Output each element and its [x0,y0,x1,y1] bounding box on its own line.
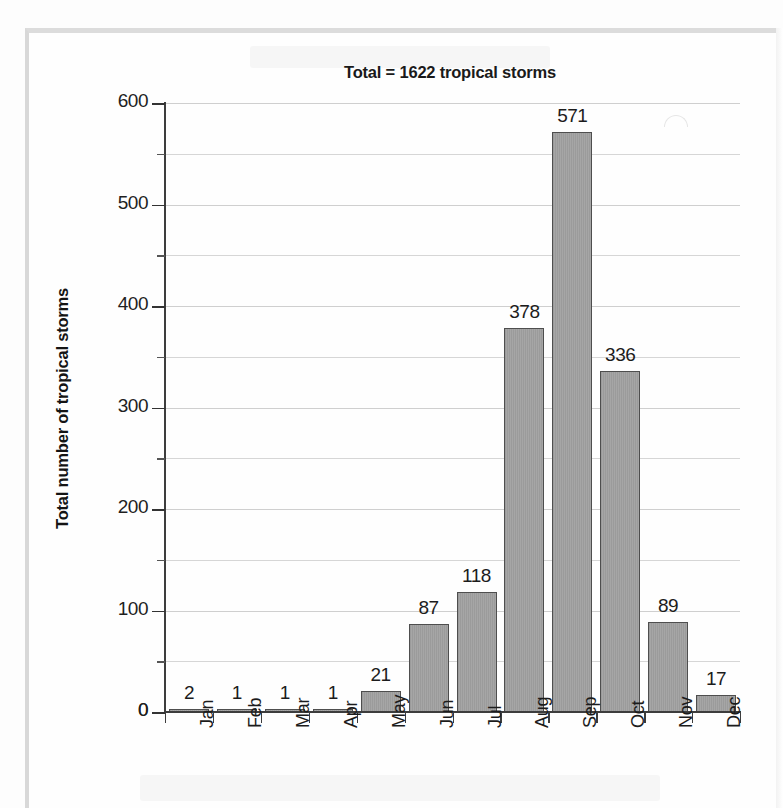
x-tick-label-jan: Jan [197,700,218,728]
y-tick-major-0 [152,712,165,714]
y-tick-major-100 [152,611,165,613]
bar-chart: Total = 1622 tropical storms Total numbe… [0,0,783,808]
gridline-450 [165,255,740,256]
bar-value-aug: 378 [484,301,564,323]
y-tick-label-0: 0 [86,699,148,721]
x-tick-0 [165,712,166,723]
x-tick-label-may: May [389,695,410,728]
y-tick-major-500 [152,205,165,207]
y-tick-label-100: 100 [86,598,148,620]
bar-value-jul: 118 [437,565,517,587]
gridline-150 [165,560,740,561]
bar-value-oct: 336 [580,344,660,366]
gridline-500 [165,205,740,206]
bar-oct [600,371,640,712]
x-tick-label-jul: Jul [485,706,506,728]
bar-sep [552,132,592,712]
y-tick-minor-550 [157,154,165,155]
y-tick-label-200: 200 [86,496,148,518]
bar-value-may: 21 [341,664,421,686]
scanned-chart-page: Total = 1622 tropical storms Total numbe… [0,0,783,808]
gridline-300 [165,408,740,409]
chart-title: Total = 1622 tropical storms [160,63,740,82]
y-tick-minor-250 [157,458,165,459]
y-tick-label-400: 400 [86,293,148,315]
bar-aug [504,328,544,712]
gridline-200 [165,509,740,510]
x-tick-label-oct: Oct [628,701,649,728]
x-tick-label-apr: Apr [341,701,362,728]
gridline-250 [165,458,740,459]
y-tick-label-500: 500 [86,192,148,214]
x-tick-label-aug: Aug [532,697,553,728]
bar-value-dec: 17 [676,668,756,690]
gridline-600 [165,103,740,104]
x-tick-label-nov: Nov [676,697,697,728]
bar-value-nov: 89 [628,595,708,617]
y-axis-title: Total number of tropical storms [53,244,72,574]
y-tick-minor-150 [157,560,165,561]
bar-value-sep: 571 [532,105,612,127]
y-tick-major-600 [152,103,165,105]
plot-area [165,103,740,712]
y-tick-major-300 [152,408,165,410]
y-tick-label-600: 600 [86,90,148,112]
gridline-550 [165,154,740,155]
x-tick-label-jun: Jun [437,700,458,728]
y-tick-minor-350 [157,357,165,358]
x-tick-label-sep: Sep [580,697,601,728]
y-tick-major-200 [152,509,165,511]
y-tick-label-300: 300 [86,395,148,417]
bar-value-jun: 87 [389,597,469,619]
y-tick-minor-450 [157,255,165,256]
gridline-400 [165,306,740,307]
y-tick-major-400 [152,306,165,308]
y-tick-minor-50 [157,661,165,662]
x-tick-label-dec: Dec [724,697,745,728]
